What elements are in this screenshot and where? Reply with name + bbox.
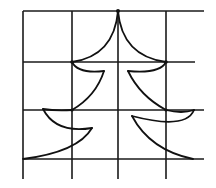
right-lower-branch-lower — [132, 116, 193, 159]
node-left-mid — [70, 60, 74, 64]
tree-outline — [23, 11, 194, 159]
left-middle-branch-upper — [72, 62, 104, 72]
left-lower-branch-upper — [43, 109, 92, 129]
tree-top-right-curve — [118, 11, 166, 62]
node-right-mid — [164, 60, 168, 64]
grid-nodes — [70, 9, 168, 112]
left-lower-branch-lower — [23, 128, 92, 159]
left-middle-branch-lower — [72, 71, 104, 110]
node-right-low — [164, 108, 167, 111]
right-middle-branch-lower — [128, 71, 166, 110]
tree-grid-diagram — [0, 0, 216, 188]
node-left-low — [70, 108, 73, 111]
tree-top-left-curve — [72, 11, 118, 62]
right-middle-branch-upper — [128, 62, 166, 72]
apex-node — [116, 9, 120, 13]
